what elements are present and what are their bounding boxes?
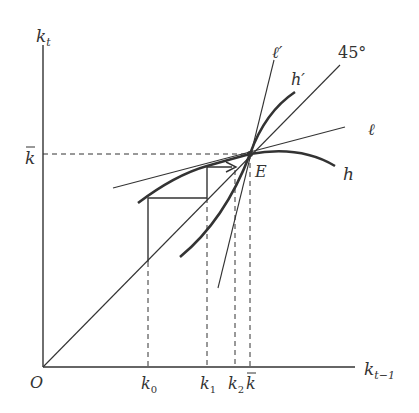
label-ell-prime: ℓ′ [272,43,283,62]
label-ell: ℓ [368,120,375,139]
y-axis-label: kt [36,26,51,49]
phase-diagram: kt kt−1 O k k0 k1 k2 k ℓ′ 45° h′ ℓ h E [0,0,419,413]
x-tick-k2: k2 [228,374,244,395]
svg-text:k: k [25,148,35,168]
origin-label: O [30,373,43,392]
x-tick-k1: k1 [200,374,216,395]
equilibrium-point [247,151,253,157]
svg-text:k: k [246,374,256,393]
x-tick-kbar: k [246,373,256,393]
line-ell [113,127,345,188]
label-h-prime: h′ [291,70,305,89]
label-45-degree: 45° [338,43,366,62]
line-45-degree [43,65,340,367]
label-equilibrium-E: E [254,162,267,181]
x-tick-k0: k0 [141,374,157,395]
curve-h-prime [180,92,295,257]
curve-h [138,151,335,203]
y-tick-kbar: k [25,147,35,168]
label-h: h [343,164,354,184]
x-axis-label: kt−1 [364,359,395,382]
